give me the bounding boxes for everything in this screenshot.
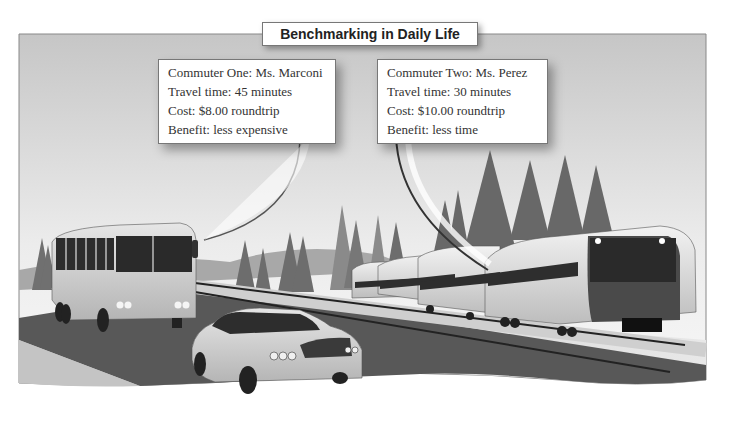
commuter-name: Commuter Two: Ms. Perez — [387, 63, 541, 82]
benchmarking-illustration — [0, 0, 743, 428]
travel-time: Travel time: 45 minutes — [168, 82, 329, 101]
cost: Cost: $10.00 roundtrip — [387, 101, 541, 120]
travel-time: Travel time: 30 minutes — [387, 82, 541, 101]
callout-commuter-two: Commuter Two: Ms. Perez Travel time: 30 … — [377, 59, 548, 144]
cost: Cost: $8.00 roundtrip — [168, 101, 329, 120]
benefit: Benefit: less expensive — [168, 120, 329, 139]
benefit: Benefit: less time — [387, 120, 541, 139]
page-title: Benchmarking in Daily Life — [262, 22, 478, 46]
bus — [52, 223, 198, 332]
callout-commuter-one: Commuter One: Ms. Marconi Travel time: 4… — [158, 59, 336, 144]
commuter-name: Commuter One: Ms. Marconi — [168, 63, 329, 82]
